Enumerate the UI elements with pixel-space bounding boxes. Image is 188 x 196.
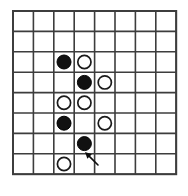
go-board-figure: black stone at column 3 row 3white stone… bbox=[0, 0, 188, 196]
stone-white[interactable]: white stone at column 3 row 5 bbox=[57, 96, 70, 109]
stone-white[interactable]: white stone at column 4 row 5 bbox=[78, 96, 91, 109]
stone-white[interactable]: white stone at column 4 row 3 bbox=[78, 55, 91, 68]
stone-black[interactable]: black stone at column 3 row 6 bbox=[57, 116, 71, 130]
stone-black[interactable]: black stone at column 4 row 7 bbox=[77, 137, 91, 151]
board-canvas: black stone at column 3 row 3white stone… bbox=[0, 0, 188, 196]
stone-black[interactable]: black stone at column 3 row 3 bbox=[57, 55, 71, 69]
stone-white[interactable]: white stone at column 5 row 6 bbox=[98, 117, 111, 130]
stone-white[interactable]: white stone at column 3 row 8 bbox=[57, 157, 70, 170]
stone-black[interactable]: black stone at column 4 row 4 bbox=[77, 75, 91, 89]
stone-white[interactable]: white stone at column 5 row 4 bbox=[98, 76, 111, 89]
